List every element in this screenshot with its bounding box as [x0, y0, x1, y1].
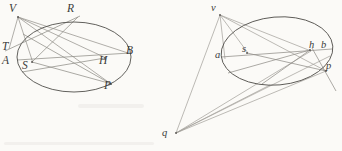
point-s-marker — [31, 61, 33, 63]
label-point-T: T — [2, 41, 8, 53]
label-point-p-lower: p — [326, 61, 331, 72]
geometry-figure-canvas — [0, 0, 342, 151]
label-point-V: V — [9, 3, 16, 15]
label-point-b-lower: b — [321, 40, 326, 51]
label-point-P: P — [104, 80, 111, 92]
ray-q-to-v — [176, 15, 220, 133]
ray-v-to-p — [18, 17, 111, 84]
label-point-R: R — [67, 3, 74, 15]
label-point-B: B — [126, 45, 133, 57]
chord-a-to-b — [17, 53, 130, 60]
scan-smudge-bottom — [4, 142, 154, 145]
chord-a-to-b2 — [221, 49, 332, 57]
ray-q-to-lower-ellipse — [176, 85, 270, 133]
label-point-q-lower: q — [162, 128, 167, 139]
point-q-marker — [175, 132, 177, 134]
point-v-marker2 — [219, 14, 221, 16]
ray-v-to-t — [9, 17, 18, 49]
point-v-marker — [17, 16, 19, 18]
label-point-v-lower: v — [211, 3, 216, 14]
figure-page: V R T A S H B P v a s h b p q — [0, 0, 342, 151]
left-ellipse-figure — [5, 16, 131, 92]
ray-q-to-p — [176, 71, 326, 133]
scan-smudge-top — [78, 104, 144, 108]
right-ellipse-figure — [175, 12, 336, 134]
ray-v-to-s — [18, 17, 33, 63]
chord-h-to-bottom — [262, 50, 310, 84]
label-point-a-lower: a — [215, 50, 220, 61]
label-point-A: A — [2, 55, 9, 67]
chord-s-to-p3 — [247, 53, 326, 71]
left-rays-from-v — [9, 17, 128, 84]
label-point-h-lower: h — [309, 40, 314, 51]
label-point-H: H — [99, 55, 107, 67]
point-s-marker2 — [246, 52, 248, 54]
label-point-s-lower: s — [242, 44, 246, 55]
label-point-S: S — [22, 60, 28, 72]
right-ellipse-outline — [218, 12, 336, 90]
